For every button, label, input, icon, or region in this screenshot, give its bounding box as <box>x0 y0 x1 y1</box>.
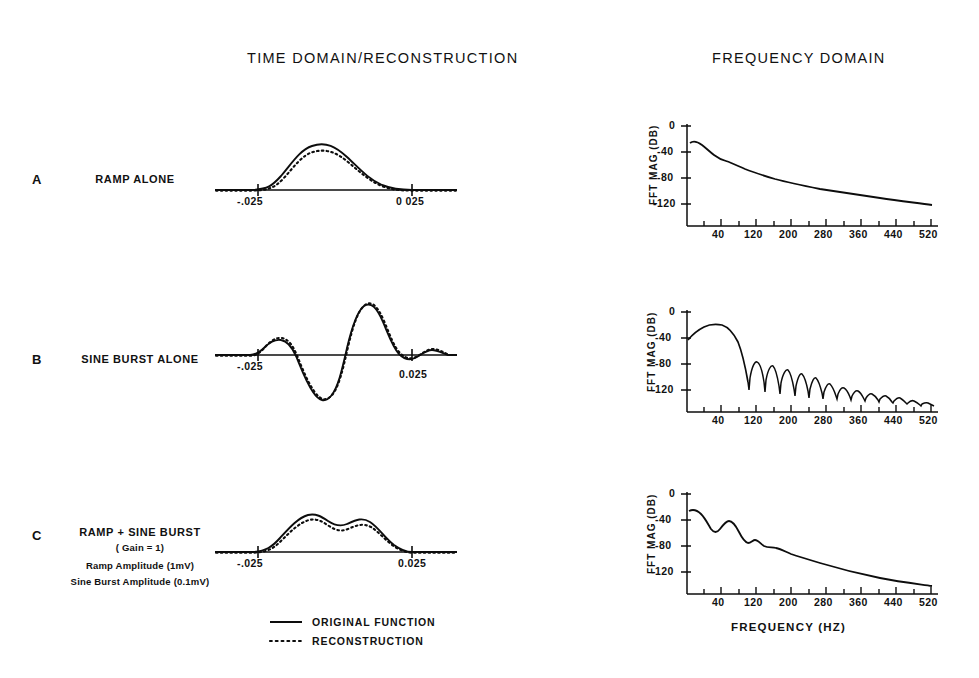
legend-label-reconstruction: RECONSTRUCTION <box>312 635 424 647</box>
figure-canvas: TIME DOMAIN/RECONSTRUCTION FREQUENCY DOM… <box>0 0 979 678</box>
legend-label-original-function: ORIGINAL FUNCTION <box>312 616 436 628</box>
legend-swatches <box>0 0 979 678</box>
